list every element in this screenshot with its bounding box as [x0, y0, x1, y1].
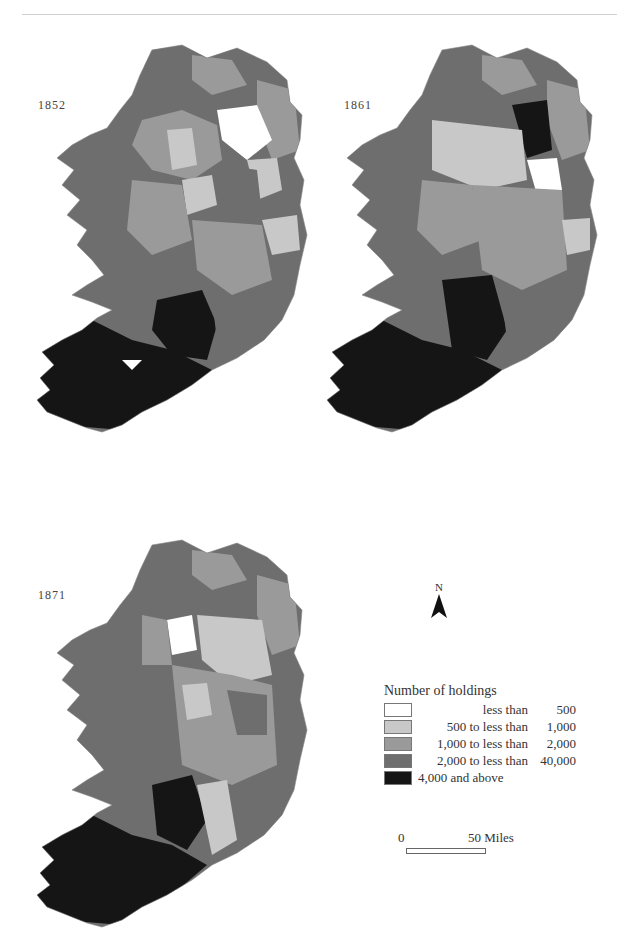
legend: Number of holdings less than 500 500 to …	[384, 683, 614, 786]
legend-swatch	[384, 703, 412, 717]
legend-value: 2,000	[528, 736, 576, 752]
north-arrow-icon	[427, 593, 451, 619]
scale-labels: 0 50 Miles	[398, 830, 538, 848]
legend-swatch	[384, 771, 412, 785]
legend-item-2000-40000: 2,000 to less than 40,000	[384, 752, 614, 769]
scale-start-label: 0	[398, 830, 405, 846]
north-letter: N	[427, 582, 451, 593]
map-1852	[32, 40, 317, 440]
legend-value: 40,000	[528, 753, 576, 769]
year-label-1852: 1852	[38, 98, 66, 113]
legend-swatch	[384, 754, 412, 768]
legend-item-500-1000: 500 to less than 1,000	[384, 718, 614, 735]
scale-bar-graphic	[406, 848, 486, 854]
legend-swatch	[384, 720, 412, 734]
ireland-map-1852	[32, 40, 317, 440]
legend-label: 500 to less than	[418, 719, 528, 735]
year-label-1871: 1871	[38, 588, 66, 603]
map-1871	[32, 535, 317, 933]
ireland-map-1871	[32, 535, 317, 933]
legend-value: 500	[528, 702, 576, 718]
legend-item-4000-plus: 4,000 and above	[384, 769, 614, 786]
legend-label: less than	[418, 702, 528, 718]
legend-value: 1,000	[528, 719, 576, 735]
scale-end-label: 50 Miles	[468, 830, 514, 846]
legend-label: 4,000 and above	[418, 770, 504, 786]
year-label-1861: 1861	[344, 98, 372, 113]
scale-bar: 0 50 Miles	[398, 830, 538, 854]
north-arrow: N	[427, 582, 451, 623]
legend-item-1000-2000: 1,000 to less than 2,000	[384, 735, 614, 752]
legend-label: 1,000 to less than	[418, 736, 528, 752]
legend-label: 2,000 to less than	[418, 753, 528, 769]
legend-item-lt500: less than 500	[384, 701, 614, 718]
legend-title: Number of holdings	[384, 683, 614, 699]
header-rule	[22, 14, 617, 15]
legend-swatch	[384, 737, 412, 751]
